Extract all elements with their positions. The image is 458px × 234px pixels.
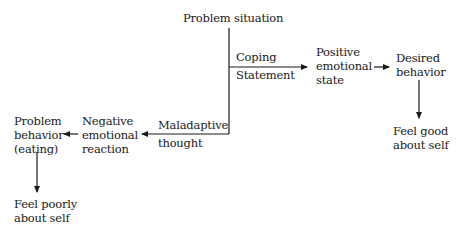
label-maladaptive: Maladaptive <box>158 118 228 132</box>
node-negative-line2: emotional <box>82 128 138 142</box>
node-negative-line1: Negative <box>82 114 133 128</box>
node-problem-behavior-line2: behavior <box>14 128 63 142</box>
node-feelpoorly-line1: Feel poorly <box>14 197 77 211</box>
node-desired-line2: behavior <box>396 65 445 79</box>
node-feelpoorly-line2: about self <box>14 211 69 225</box>
node-feelgood-line2: about self <box>393 138 448 152</box>
node-problem-behavior-line3: (eating) <box>14 142 58 156</box>
node-problem-situation: Problem situation <box>183 11 283 25</box>
node-negative-line3: reaction <box>82 142 129 156</box>
node-problem-behavior-line1: Problem <box>14 114 62 128</box>
node-positive-line3: state <box>316 73 344 87</box>
label-statement: Statement <box>236 68 295 82</box>
node-desired-line1: Desired <box>396 51 440 65</box>
node-positive-line2: emotional <box>316 59 372 73</box>
label-coping: Coping <box>236 50 276 64</box>
node-feelgood-line1: Feel good <box>393 124 448 138</box>
node-positive-line1: Positive <box>316 45 360 59</box>
label-thought: thought <box>158 136 202 150</box>
